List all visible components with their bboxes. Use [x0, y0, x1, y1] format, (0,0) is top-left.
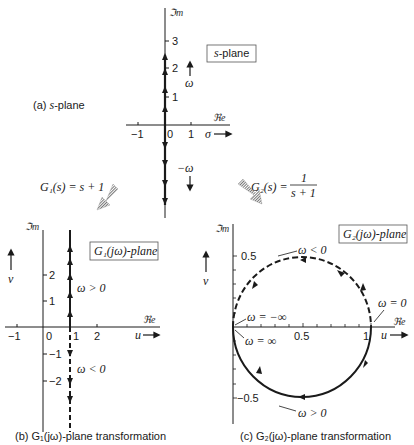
u-label: u [381, 328, 387, 342]
y-tick-neg1: −1 [49, 348, 62, 360]
y-tick-2: 2 [172, 62, 178, 74]
g1-plane-box-label: G₁(jω)-plane [94, 244, 158, 258]
s-plane-box-label: s-plane [214, 46, 249, 60]
re-axis-label: ℜe [213, 112, 226, 123]
neg-omega-label: −ω [177, 161, 194, 175]
g2-denominator: s + 1 [291, 186, 316, 200]
leader-line [235, 330, 244, 338]
panel-c-g2-plane: ℑm 0.5 −0.5 0.5 1 ℜe u v ω < 0 ω > 0 ω =… [203, 223, 407, 442]
y-tick-neg2: −2 [49, 375, 62, 387]
y-tick-neg0.5: −0.5 [237, 392, 259, 404]
im-axis-label: ℑm [215, 223, 229, 234]
y-tick-1: 1 [49, 295, 55, 307]
mapping-g2: G₂(s) = 1 s + 1 [238, 171, 317, 204]
im-axis-label: ℑm [169, 7, 183, 18]
u-label: u [135, 328, 141, 342]
v-label: v [203, 274, 209, 288]
omega-neg-label: ω < 0 [77, 362, 106, 376]
y-tick-2: 2 [49, 269, 55, 281]
y-tick-3: 3 [172, 35, 178, 47]
g2-numerator: 1 [301, 171, 307, 185]
panel-b-g1-plane: ℑm 2 1 −1 −2 −1 0 1 2 ℜe u v ω > 0 ω < 0… [5, 221, 166, 442]
leader-line [278, 251, 297, 256]
omega-neg-inf-label: ω = −∞ [247, 310, 287, 324]
sigma-label: σ [205, 127, 212, 141]
x-tick-0: 0 [167, 128, 173, 140]
x-tick-0: 0 [46, 330, 52, 342]
omega-neg-label: ω < 0 [298, 243, 327, 257]
omega-pos-label: ω > 0 [298, 406, 327, 420]
mapping-g1: G₁(s) = s + 1 [40, 180, 118, 210]
caption-a: (a)s-plane [33, 98, 85, 112]
re-axis-label: ℜe [143, 314, 156, 325]
caption-b: (b) G₁(jω)-plane transformation [15, 430, 166, 442]
y-tick-1: 1 [172, 91, 178, 103]
x-tick-0.5: 0.5 [294, 330, 309, 342]
x-tick-neg1: −1 [8, 330, 21, 342]
caption-c: (c) G₂(jω)-plane transformation [240, 430, 391, 442]
x-tick-2: 2 [94, 330, 100, 342]
omega-pos-label: ω > 0 [77, 281, 106, 295]
g2-plane-box-label: G₂(jω)-plane [343, 227, 407, 241]
s-plane-mapping-diagram: ℑm 3 2 1 −1 0 1 ℜe σ ω −ω s-plane (a)s-p… [0, 0, 414, 445]
x-tick-neg1: −1 [131, 128, 144, 140]
leader-line [374, 310, 384, 322]
x-tick-1: 1 [188, 128, 194, 140]
omega-zero-label: ω = 0 [378, 296, 407, 310]
x-tick-1: 1 [363, 330, 369, 342]
re-axis-label: ℜe [393, 316, 406, 327]
im-axis-label: ℑm [25, 221, 39, 232]
omega-pos-inf-label: ω = ∞ [245, 334, 277, 348]
y-tick-0.5: 0.5 [241, 250, 256, 262]
g1-equation: G₁(s) = s + 1 [40, 180, 104, 194]
leader-line [279, 406, 296, 411]
leader-line [235, 319, 246, 325]
x-tick-1: 1 [73, 330, 79, 342]
omega-label: ω [185, 76, 193, 90]
v-label: v [8, 272, 14, 286]
